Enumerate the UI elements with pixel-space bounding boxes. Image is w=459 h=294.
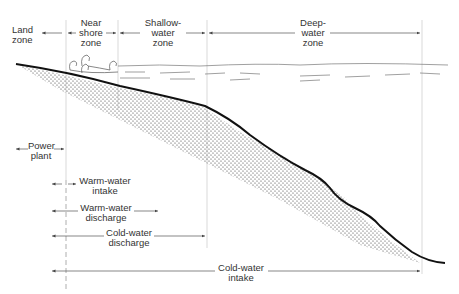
water-surface	[118, 64, 448, 82]
power-plant-label: Power plant	[28, 141, 54, 161]
seabed-sediment	[16, 64, 420, 263]
shallow-line3: zone	[140, 38, 186, 48]
warm-discharge-line2: discharge	[79, 213, 133, 223]
power-plant-line2: plant	[28, 151, 54, 161]
shallow-water-zone-label: Shallow- water zone	[140, 18, 186, 48]
deep-line3: zone	[296, 38, 330, 48]
breaking-waves	[70, 55, 119, 73]
warm-water-discharge-label: Warm-water discharge	[79, 203, 133, 223]
nearshore-zone-label: Near shore zone	[76, 18, 106, 48]
cold-water-intake-label: Cold-water intake	[216, 263, 266, 283]
land-zone-label: Land zone	[12, 25, 42, 45]
nearshore-line3: zone	[76, 38, 106, 48]
cold-water-discharge-label: Cold-water discharge	[104, 228, 154, 248]
cold-intake-line2: intake	[216, 273, 266, 283]
land-zone-line2: zone	[12, 35, 42, 45]
diagram-canvas	[0, 0, 459, 294]
warm-water-intake-label: Warm-water intake	[78, 176, 132, 196]
deep-water-zone-label: Deep- water zone	[296, 18, 330, 48]
cold-discharge-line2: discharge	[104, 238, 154, 248]
warm-intake-line2: intake	[78, 186, 132, 196]
